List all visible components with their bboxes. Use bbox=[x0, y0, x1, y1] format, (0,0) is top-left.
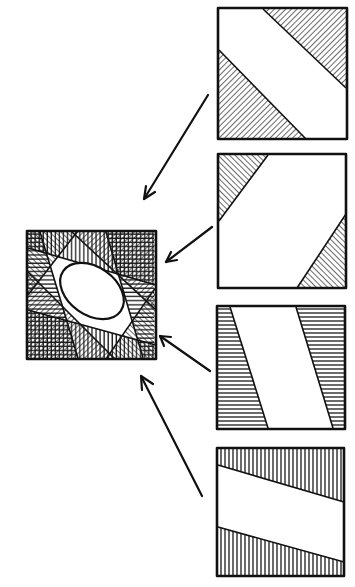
panel-3-left-hatch bbox=[218, 307, 268, 428]
panel-4-top-hatch bbox=[218, 449, 344, 502]
panel-2 bbox=[218, 154, 346, 288]
arrow-panel-3-to-composite bbox=[160, 336, 210, 371]
panel-4 bbox=[217, 448, 344, 576]
panel-1 bbox=[218, 8, 347, 139]
panel-3-right-hatch bbox=[296, 307, 344, 428]
diagram-canvas bbox=[0, 0, 355, 587]
composite bbox=[27, 231, 156, 359]
panel-3 bbox=[217, 306, 345, 429]
arrowhead-icon bbox=[144, 186, 155, 199]
panel-4-bottom-hatch bbox=[218, 527, 344, 576]
arrow-panel-2-to-composite bbox=[166, 227, 212, 262]
arrow-panel-1-to-composite bbox=[144, 95, 208, 199]
arrow-panel-4-to-composite bbox=[141, 376, 202, 496]
